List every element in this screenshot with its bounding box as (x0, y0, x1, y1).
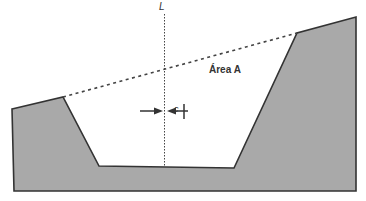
area-label: Área A (209, 64, 241, 75)
diagram-canvas: L Área A c (0, 0, 366, 201)
dashed-chord-line (63, 33, 297, 97)
gap-label: c (174, 104, 179, 114)
channel-cross-section (0, 0, 366, 201)
left-arrow-icon (140, 108, 163, 115)
line-label: L (159, 1, 165, 12)
